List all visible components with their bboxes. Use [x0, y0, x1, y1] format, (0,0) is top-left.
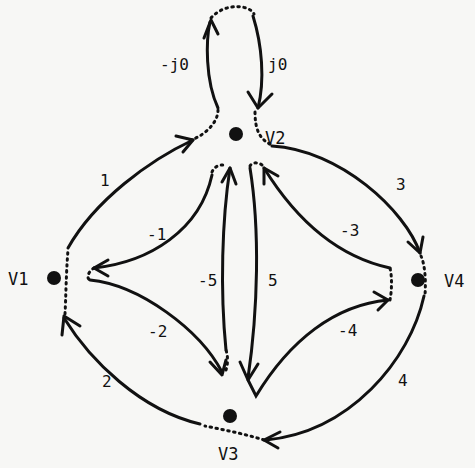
edge-label-2: 2 — [102, 372, 112, 391]
edge-label-minus-4: -4 — [338, 321, 357, 340]
node-label-v2: V2 — [265, 128, 285, 148]
node-label-v1: V1 — [8, 269, 28, 289]
edge-minus-3 — [264, 168, 390, 268]
edge-label-1: 1 — [100, 171, 110, 190]
edge-label-j0: j0 — [268, 55, 287, 74]
edge-label-minus-5: -5 — [198, 271, 217, 290]
edge-label-minus-1: -1 — [147, 225, 166, 244]
edge-minus-4 — [248, 300, 388, 396]
node-v3 — [223, 409, 237, 423]
edge-label-minus-3: -3 — [340, 221, 359, 240]
node-label-v4: V4 — [444, 271, 464, 291]
edge-5 — [248, 168, 257, 378]
node-v1 — [47, 271, 61, 285]
self-loop-v2 — [190, 7, 272, 145]
edge-4 — [266, 296, 424, 440]
directed-graph-diagram: V1 V2 V3 V4 1 -1 2 -2 3 -3 4 -4 5 -5 j0 … — [0, 0, 475, 468]
edge-2 — [64, 318, 200, 424]
edge-label-minus-2: -2 — [148, 322, 167, 341]
edge-label-minus-j0: -j0 — [160, 55, 189, 74]
node-v2 — [229, 127, 243, 141]
edge-label-4: 4 — [398, 371, 408, 390]
node-v4 — [411, 273, 425, 287]
edge-1 — [68, 140, 193, 248]
edge-label-3: 3 — [396, 175, 406, 194]
node-label-v3: V3 — [218, 444, 238, 464]
edge-minus-5 — [223, 168, 230, 350]
edge-label-5: 5 — [268, 271, 278, 290]
edge-minus-1 — [94, 175, 212, 268]
